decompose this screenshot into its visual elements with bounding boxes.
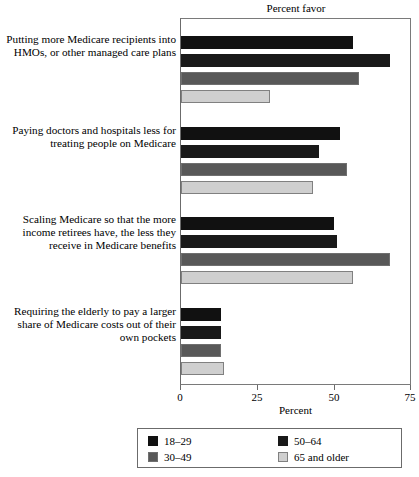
bar-group-0-series-0 [181, 36, 353, 49]
chart-title: Percent favor [180, 2, 412, 14]
bar-group-2-series-3 [181, 271, 353, 284]
bar-group-2-series-0 [181, 217, 334, 230]
category-label-3-line-2: own pockets [2, 331, 176, 344]
legend-item-18-29: 18–29 [148, 435, 192, 447]
bar-group-1-series-0 [181, 127, 340, 140]
category-label-3-line-0: Requiring the elderly to pay a larger [2, 305, 176, 318]
category-label-1: Paying doctors and hospitals less for tr… [2, 124, 176, 150]
category-label-2: Scaling Medicare so that the more income… [2, 213, 176, 253]
x-tick-75 [410, 385, 411, 390]
x-axis-title: Percent [180, 404, 411, 416]
category-label-0-line-0: Putting more Medicare recipients into [2, 33, 176, 46]
x-tick-label-75: 75 [390, 391, 419, 403]
legend-label-30-49: 30–49 [164, 451, 192, 463]
bar-group-3-series-3 [181, 362, 224, 375]
bar-group-2-series-2 [181, 253, 390, 266]
category-label-1-line-1: treating people on Medicare [2, 137, 176, 150]
legend-label-18-29: 18–29 [164, 435, 192, 447]
legend-swatch-icon-18-29 [148, 436, 158, 446]
x-tick-label-0: 0 [160, 391, 200, 403]
x-tick-label-50: 50 [314, 391, 354, 403]
bar-group-2-series-1 [181, 235, 337, 248]
x-tick-label-25: 25 [237, 391, 277, 403]
legend-item-30-49: 30–49 [148, 451, 192, 463]
bar-chart-figure: Percent favor Putting more Medicare reci… [0, 0, 419, 477]
bar-group-0-series-2 [181, 72, 359, 85]
bar-group-1-series-1 [181, 145, 319, 158]
legend-swatch-icon-65-and-older [278, 452, 288, 462]
bar-group-0-series-3 [181, 90, 270, 103]
bar-group-3-series-0 [181, 308, 221, 321]
x-tick-50 [334, 385, 335, 390]
category-label-3-line-1: share of Medicare costs out of their [2, 318, 176, 331]
legend-swatch-icon-30-49 [148, 452, 158, 462]
bar-group-1-series-3 [181, 181, 313, 194]
bar-group-1-series-2 [181, 163, 347, 176]
category-label-1-line-0: Paying doctors and hospitals less for [2, 124, 176, 137]
category-label-3: Requiring the elderly to pay a larger sh… [2, 305, 176, 345]
bar-group-3-series-2 [181, 344, 221, 357]
x-tick-25 [257, 385, 258, 390]
bar-group-3-series-1 [181, 326, 221, 339]
category-label-0: Putting more Medicare recipients into HM… [2, 33, 176, 59]
legend-item-50-64: 50–64 [278, 435, 322, 447]
legend-label-65-and-older: 65 and older [294, 451, 349, 463]
legend-item-65-and-older: 65 and older [278, 451, 349, 463]
legend-label-50-64: 50–64 [294, 435, 322, 447]
legend-swatch-icon-50-64 [278, 436, 288, 446]
category-label-0-line-1: HMOs, or other managed care plans [2, 46, 176, 59]
legend: 18–29 30–49 50–64 65 and older [137, 428, 402, 468]
category-label-2-line-1: income retirees have, the less they [2, 226, 176, 239]
x-tick-0 [180, 385, 181, 390]
bars-layer [181, 19, 411, 384]
category-label-2-line-0: Scaling Medicare so that the more [2, 213, 176, 226]
bar-group-0-series-1 [181, 54, 390, 67]
category-label-2-line-2: receive in Medicare benefits [2, 239, 176, 252]
